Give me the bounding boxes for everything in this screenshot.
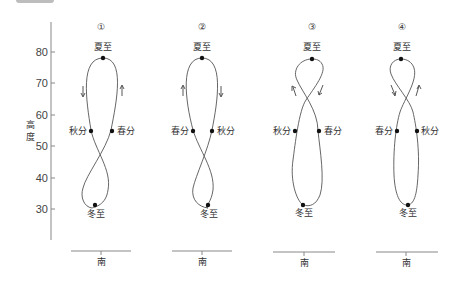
label-south: 南 <box>198 256 207 267</box>
y-tick-80: 80 <box>36 46 48 58</box>
panel-number: ④ <box>398 22 406 32</box>
y-tick-30: 30 <box>36 203 48 215</box>
arrow-down-icon <box>391 85 396 96</box>
label-south: 南 <box>402 257 411 268</box>
label-summer-solstice: 夏至 <box>393 42 411 52</box>
label-right-equinox: 秋分 <box>421 125 439 136</box>
analemma-diagram: 80 70 60 50 40 30 高 度 ① 夏至 秋分 春分 冬至 南 ② … <box>0 0 459 287</box>
panel-1: ① 夏至 秋分 春分 冬至 南 <box>69 22 135 267</box>
panel-number: ② <box>198 22 206 32</box>
arrow-up-icon <box>120 85 124 96</box>
y-tick-40: 40 <box>36 172 48 184</box>
label-south: 南 <box>97 256 106 267</box>
label-summer-solstice: 夏至 <box>193 42 211 52</box>
label-winter-solstice: 冬至 <box>295 207 313 218</box>
analemma-curve <box>390 59 418 205</box>
panel-number: ① <box>97 22 105 32</box>
y-tick-70: 70 <box>36 77 48 89</box>
label-left-equinox: 秋分 <box>69 125 87 136</box>
label-summer-solstice: 夏至 <box>303 42 321 52</box>
label-summer-solstice: 夏至 <box>94 42 112 52</box>
y-label-top: 高 <box>26 119 35 130</box>
label-right-equinox: 秋分 <box>217 125 235 136</box>
label-winter-solstice: 冬至 <box>87 208 105 219</box>
arrow-down-icon <box>318 85 323 95</box>
arrow-down-icon <box>219 86 223 97</box>
arrow-up-icon <box>416 85 421 96</box>
label-left-equinox: 春分 <box>375 125 393 136</box>
label-left-equinox: 春分 <box>171 125 189 136</box>
panel-2: ② 夏至 春分 秋分 冬至 南 <box>171 22 235 267</box>
y-tick-50: 50 <box>36 140 48 152</box>
label-south: 南 <box>300 257 309 268</box>
y-tick-60: 60 <box>36 109 48 121</box>
arrow-down-icon <box>81 86 85 97</box>
label-winter-solstice: 冬至 <box>200 208 218 219</box>
panel-4: ④ 夏至 春分 秋分 冬至 南 <box>375 22 439 268</box>
arrow-up-icon <box>181 85 185 96</box>
label-left-equinox: 秋分 <box>273 125 291 136</box>
arrow-up-icon <box>292 86 296 96</box>
label-right-equinox: 春分 <box>117 125 135 136</box>
panel-number: ③ <box>308 22 316 32</box>
y-axis: 80 70 60 50 40 30 高 度 <box>26 22 56 240</box>
label-winter-solstice: 冬至 <box>399 207 417 218</box>
panel-3: ③ 夏至 秋分 春分 冬至 南 <box>273 22 342 268</box>
label-right-equinox: 春分 <box>324 125 342 136</box>
y-label-bottom: 度 <box>26 131 35 142</box>
